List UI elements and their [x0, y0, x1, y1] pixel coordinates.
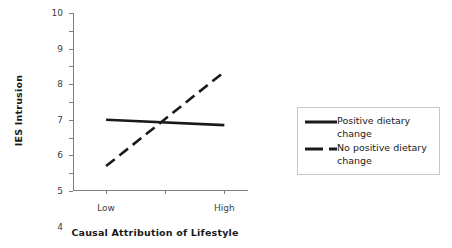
x-tick-label: Low	[97, 203, 115, 213]
legend: Positive dietary change No positive diet…	[297, 107, 440, 175]
y-tick-label: 5	[57, 186, 63, 196]
y-tick-label: 9	[57, 44, 63, 54]
series-line-1	[106, 72, 224, 166]
y-tick-label: 7	[57, 115, 63, 125]
x-tick-label: High	[214, 203, 235, 213]
plot-area: 109876543210 LowHigh	[73, 13, 247, 190]
y-tick-mark: 0	[69, 191, 73, 192]
x-axis-title: Causal Attribution of Lifestyle	[57, 227, 253, 238]
legend-label-0: Positive dietary change	[337, 115, 435, 140]
legend-item-positive-dietary-change: Positive dietary change	[305, 115, 435, 140]
series-lines	[73, 13, 248, 191]
y-tick-label: 8	[57, 79, 63, 89]
dashed-line-swatch	[305, 143, 337, 155]
solid-line-swatch	[305, 116, 337, 128]
y-tick-label: 10	[52, 8, 63, 18]
line-chart-figure: IES Intrusion 109876543210 LowHigh Causa…	[0, 0, 452, 248]
series-line-0	[106, 120, 224, 125]
legend-label-1: No positive dietary change	[337, 142, 435, 167]
y-axis-title: IES Intrusion	[13, 56, 24, 166]
legend-item-no-positive-dietary-change: No positive dietary change	[305, 142, 435, 167]
y-tick-label: 6	[57, 150, 63, 160]
